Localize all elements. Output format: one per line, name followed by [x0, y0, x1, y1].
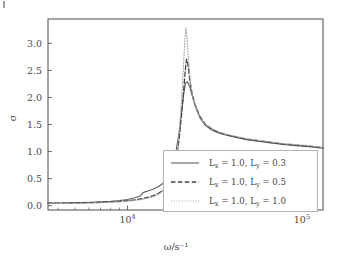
x-tick-label: 105 [294, 213, 310, 225]
corner-artifact-mark [3, 1, 5, 8]
x-axis-tick-labels: 104105 [119, 213, 310, 225]
y-tick-label: 0.0 [27, 200, 42, 211]
y-tick-label: 3.0 [27, 38, 42, 49]
y-tick-label: 1.5 [27, 119, 42, 130]
y-axis-tick-labels: 0.00.51.01.52.02.53.0 [27, 38, 42, 211]
y-tick-label: 0.5 [27, 173, 42, 184]
x-tick-label: 104 [119, 213, 135, 225]
y-axis-title: σ [7, 114, 18, 121]
legend[interactable]: Lx = 1.0, Ly = 0.3Lx = 1.0, Ly = 0.5Lx =… [164, 151, 318, 212]
y-tick-label: 2.5 [27, 65, 42, 76]
y-tick-label: 1.0 [27, 146, 42, 157]
y-tick-label: 2.0 [27, 92, 42, 103]
x-axis-title: ω/s⁻¹ [164, 241, 189, 252]
line-chart: 0.00.51.01.52.02.53.0 104105 σ ω/s⁻¹ Lx … [0, 0, 338, 264]
figure-container: 0.00.51.01.52.02.53.0 104105 σ ω/s⁻¹ Lx … [0, 0, 338, 264]
